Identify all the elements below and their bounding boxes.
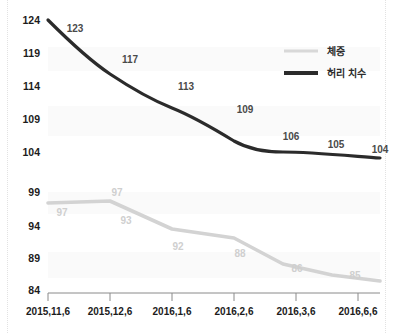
y-tick-label-124: 124 (22, 14, 40, 26)
x-tick-label-3: 2016,2,6 (215, 306, 254, 317)
data-label-weight-3: 92 (172, 241, 184, 252)
x-tick-label-4: 2016,3,6 (277, 306, 316, 317)
data-label-waist-2: 113 (178, 81, 195, 92)
x-tick-label-2: 2016,1,6 (153, 306, 192, 317)
x-tick-label-0: 2015,11,6 (26, 306, 70, 317)
data-label-waist-6: 104 (372, 144, 389, 155)
x-tick-label-5: 2016,6,6 (339, 306, 378, 317)
data-label-weight-1: 97 (111, 187, 123, 198)
data-label-weight-5: 86 (291, 263, 303, 274)
data-label-waist-4: 106 (283, 131, 300, 142)
data-label-waist-3: 109 (237, 104, 254, 115)
dual-panel-line-chart: 124 119 114 109 104 123 117 113 109 106 … (0, 0, 396, 333)
chart-canvas: 124 119 114 109 104 123 117 113 109 106 … (0, 0, 396, 333)
y-tick-label-119: 119 (23, 47, 40, 59)
data-label-weight-4: 88 (234, 248, 246, 259)
legend-label-weight: 체중 (327, 45, 345, 57)
y-tick-label-99: 99 (28, 186, 40, 198)
y-tick-label-109: 109 (22, 113, 40, 125)
y-tick-label-104: 104 (22, 146, 40, 158)
data-label-weight-0: 97 (56, 207, 68, 218)
data-label-waist-5: 105 (328, 139, 345, 150)
y-tick-label-84: 84 (28, 284, 40, 296)
data-label-waist-0: 123 (67, 23, 84, 34)
x-tick-label-1: 2015,12,6 (88, 306, 133, 317)
legend-label-waist: 허리 치수 (327, 67, 366, 79)
data-label-waist-1: 117 (122, 54, 139, 65)
y-tick-label-114: 114 (23, 80, 40, 92)
data-label-weight-2: 93 (120, 215, 132, 226)
background-band (48, 106, 380, 136)
y-tick-label-94: 94 (28, 220, 40, 232)
waist-line-series (48, 20, 380, 158)
data-label-weight-6: 85 (349, 270, 361, 281)
y-tick-label-89: 89 (28, 252, 40, 264)
